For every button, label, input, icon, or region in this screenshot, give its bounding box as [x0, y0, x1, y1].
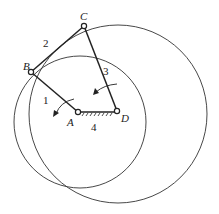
arrowhead-3-icon [93, 88, 99, 95]
label-A: A [66, 116, 74, 128]
joint-A [75, 109, 80, 114]
link-1 [31, 72, 78, 112]
label-link-3: 3 [103, 65, 109, 77]
label-link-2: 2 [43, 37, 49, 49]
arrowhead-1-icon [53, 110, 59, 117]
label-link-4: 4 [91, 121, 97, 133]
joint-D [114, 108, 119, 113]
link-3 [84, 26, 117, 111]
joint-C [81, 23, 86, 28]
ground-hatch [80, 112, 115, 116]
label-B: B [23, 60, 30, 72]
link-2 [31, 26, 84, 72]
label-C: C [80, 10, 88, 22]
label-D: D [120, 112, 129, 124]
label-link-1: 1 [43, 94, 49, 106]
linkage-diagram: C B A D 1 2 3 4 [0, 0, 219, 214]
